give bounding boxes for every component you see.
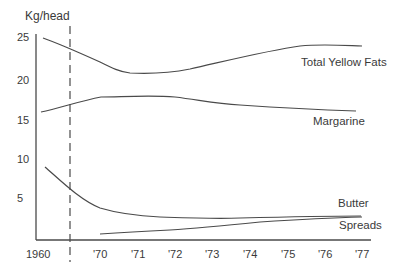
series-spreads (100, 217, 362, 234)
x-tick-77: '77 (355, 248, 369, 260)
label-margarine: Margarine (313, 115, 365, 127)
x-tick-71: '71 (131, 248, 145, 260)
y-tick-25: 25 (17, 31, 29, 43)
x-tick-72: '72 (168, 248, 182, 260)
x-tick-70: '70 (93, 248, 107, 260)
x-tick-labels: 1960 '70 '71 '72 '73 '74 '75 '76 '77 (26, 248, 369, 260)
line-chart: Kg/head 25 20 15 10 5 1960 '70 '71 '72 '… (0, 0, 408, 277)
y-tick-labels: 25 20 15 10 5 (17, 31, 29, 204)
y-tick-10: 10 (17, 153, 29, 165)
series-butter (45, 167, 361, 218)
x-tick-75: '75 (281, 248, 295, 260)
series-margarine (41, 96, 356, 112)
y-tick-20: 20 (17, 74, 29, 86)
x-tick-74: '74 (243, 248, 257, 260)
x-tick-1960: 1960 (26, 248, 50, 260)
y-axis-label: Kg/head (25, 9, 70, 23)
label-spreads: Spreads (339, 219, 382, 231)
x-tick-73: '73 (205, 248, 219, 260)
label-total-yellow-fats: Total Yellow Fats (301, 56, 387, 68)
x-tick-76: '76 (318, 248, 332, 260)
y-tick-15: 15 (17, 114, 29, 126)
label-butter: Butter (338, 197, 369, 209)
y-tick-5: 5 (17, 192, 23, 204)
